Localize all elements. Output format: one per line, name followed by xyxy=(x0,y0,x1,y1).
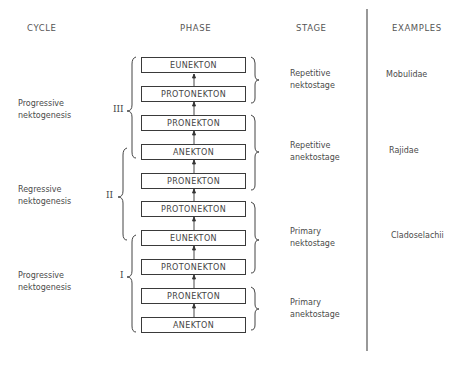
phase-box-eunekton-top: EUNEKTON xyxy=(141,57,246,73)
example-rajidae: Rajidae xyxy=(389,145,419,157)
brace-i xyxy=(127,235,136,332)
cycle-numeral-ii: II xyxy=(106,190,113,200)
brace-stage-3 xyxy=(251,202,259,273)
example-mobulidae: Mobulidae xyxy=(386,69,427,81)
cycle-label-i: Progressive nektogenesis xyxy=(18,270,71,294)
right-braces xyxy=(251,57,259,330)
brace-ii xyxy=(118,148,127,240)
cycle-label-ii: Regressive nektogenesis xyxy=(18,184,71,208)
brace-iii xyxy=(127,57,136,158)
stage-label-primary-anektostage: Primary anektostage xyxy=(290,297,340,321)
phase-box-protonekton-mid: PROTONEKTON xyxy=(141,201,246,217)
phase-box-eunekton-low: EUNEKTON xyxy=(141,230,246,246)
phase-box-pronekton-mid: PRONEKTON xyxy=(141,173,246,189)
example-cladoselachii: Cladoselachii xyxy=(391,230,444,242)
brace-stage-2 xyxy=(251,115,259,190)
arrows xyxy=(193,74,196,317)
brace-stage-1 xyxy=(251,57,259,103)
stage-label-primary-nektostage: Primary nektostage xyxy=(290,226,335,250)
stage-label-repetitive-anektostage: Repetitive anektostage xyxy=(290,140,340,164)
cycle-numeral-i: I xyxy=(120,270,124,280)
phase-box-pronekton-top: PRONEKTON xyxy=(141,115,246,131)
left-braces xyxy=(118,57,136,332)
stage-label-repetitive-nektostage: Repetitive nektostage xyxy=(290,68,335,92)
phase-box-protonekton-top: PROTONEKTON xyxy=(141,86,246,102)
phase-box-protonekton-low: PROTONEKTON xyxy=(141,259,246,275)
phase-box-pronekton-low: PRONEKTON xyxy=(141,288,246,304)
brace-stage-4 xyxy=(251,287,259,330)
cycle-numeral-iii: III xyxy=(113,104,124,114)
cycle-label-iii: Progressive nektogenesis xyxy=(18,98,71,122)
phase-box-anekton-mid: ANEKTON xyxy=(141,144,246,160)
phase-box-anekton-bottom: ANEKTON xyxy=(141,317,246,333)
